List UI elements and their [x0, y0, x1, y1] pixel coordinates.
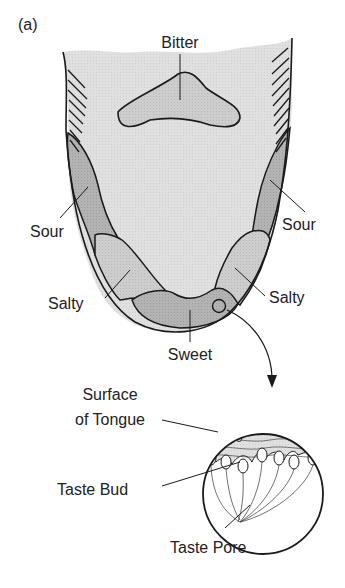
arrow-head — [267, 375, 277, 388]
inset-magnified-view — [200, 400, 330, 555]
label-salty-left: Salty — [48, 295, 84, 312]
label-salty-right: Salty — [269, 289, 305, 306]
arrow-to-inset — [227, 310, 272, 380]
label-sour-right: Sour — [282, 216, 316, 233]
label-of-tongue: of Tongue — [75, 411, 145, 428]
label-sweet: Sweet — [168, 346, 213, 363]
panel-label: (a) — [18, 16, 38, 33]
tongue-taste-map-diagram: (a) — [0, 0, 345, 588]
label-surface: Surface — [82, 386, 137, 403]
label-sour-left: Sour — [30, 223, 64, 240]
label-taste-bud: Taste Bud — [57, 481, 128, 498]
tongue — [60, 38, 305, 388]
label-bitter: Bitter — [161, 34, 199, 51]
label-taste-pore: Taste Pore — [170, 539, 247, 556]
